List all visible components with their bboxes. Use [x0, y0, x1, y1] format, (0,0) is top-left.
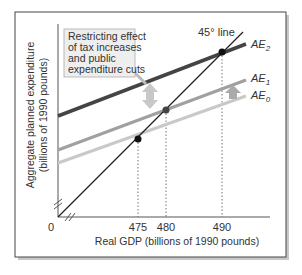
- x-tick-475: 475: [129, 221, 147, 233]
- x-tick-480: 480: [157, 221, 175, 233]
- equilibrium-point-ae1: [163, 107, 170, 114]
- equilibrium-point-ae0: [135, 136, 142, 143]
- origin-label: 0: [48, 221, 54, 233]
- annotation-line-4: expenditure cuts: [68, 63, 145, 75]
- x-tick-490: 490: [213, 221, 231, 233]
- x-axis-label: Real GDP (billions of 1990 pounds): [95, 235, 259, 247]
- equilibrium-point-ae2: [219, 49, 226, 56]
- y-axis-label-line1: Aggregate planned expenditure: [24, 42, 36, 189]
- chart-frame: [15, 12, 286, 257]
- chart-figure: Aggregate planned expenditure (billions …: [0, 0, 302, 275]
- 45-degree-line-label: 45° line: [198, 26, 235, 38]
- y-axis-label-line2: (billions of 1990 pounds): [37, 58, 49, 172]
